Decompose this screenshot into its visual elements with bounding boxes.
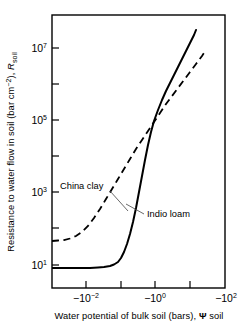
y-axis-title: Resistance to water flow in soil (bar cm… xyxy=(5,52,18,252)
y-tick-label-1e3: 103 xyxy=(31,186,47,198)
x-tick-label-neg1e2: −102 xyxy=(215,292,237,304)
y-tick-label-1e5: 105 xyxy=(31,114,47,126)
series-label-china-clay: China clay xyxy=(60,181,104,191)
x-axis-title: Water potential of bulk soil (bars), Ψ s… xyxy=(54,311,223,321)
figure-container: 107 105 103 101 −10−2 −100 xyxy=(0,0,248,335)
y-tick-label-1e1: 101 xyxy=(31,259,47,271)
x-tick-label-neg1e-2: −10−2 xyxy=(73,292,99,304)
series-label-indio-loam: Indio loam xyxy=(147,209,190,219)
resistance-vs-water-potential-chart: 107 105 103 101 −10−2 −100 xyxy=(0,0,248,335)
x-axis-tick-labels: −10−2 −100 −102 xyxy=(73,292,237,304)
x-tick-label-neg1e0: −100 xyxy=(144,292,166,304)
y-axis-tick-labels: 107 105 103 101 xyxy=(31,42,47,271)
plot-frame xyxy=(52,15,225,288)
y-tick-label-1e7: 107 xyxy=(31,42,47,54)
